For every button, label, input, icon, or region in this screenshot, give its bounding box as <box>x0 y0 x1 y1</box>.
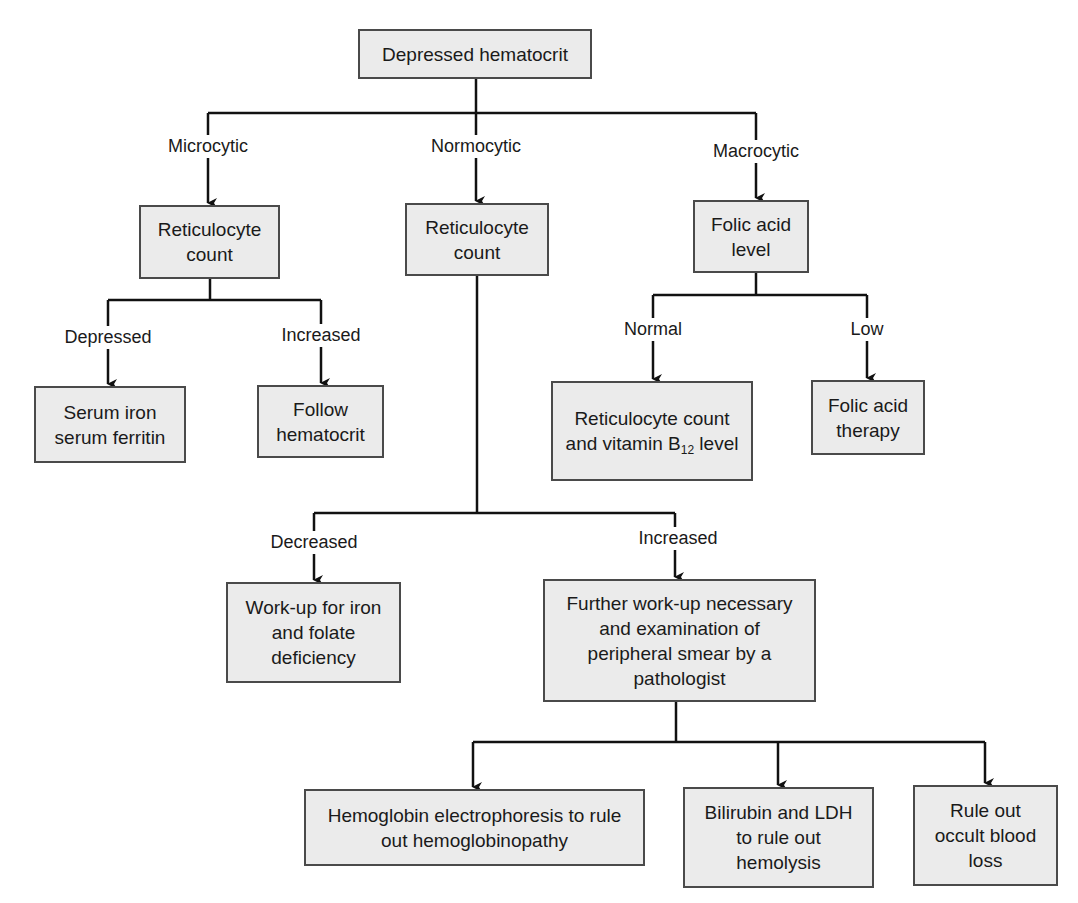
node-text: Folic acid therapy <box>821 393 916 443</box>
edge-label-microcytic: Microcytic <box>165 135 251 158</box>
node-text: Depressed hematocrit <box>382 42 568 67</box>
node-text: Hemoglobin electrophoresis to rule out h… <box>315 803 635 853</box>
node-text: Rule out occult blood loss <box>928 798 1043 873</box>
node-text-subscript: 12 <box>681 443 694 457</box>
edge-label-normal: Normal <box>621 318 685 341</box>
node-text: Folic acid level <box>706 212 796 262</box>
node-text: Further work-up necessary and examinatio… <box>555 591 805 691</box>
node-rule-out-occult-blood: Rule out occult blood loss <box>913 785 1058 886</box>
node-text: Bilirubin and LDH to rule out hemolysis <box>696 800 861 875</box>
node-text: Reticulocyte count <box>422 215 532 265</box>
node-hemoglobin-electrophoresis: Hemoglobin electrophoresis to rule out h… <box>304 789 645 866</box>
node-bilirubin-ldh: Bilirubin and LDH to rule out hemolysis <box>683 787 874 888</box>
flowchart-canvas: Depressed hematocrit Reticulocyte count … <box>0 0 1078 903</box>
node-text: Follow hematocrit <box>271 397 371 447</box>
node-folic-acid-level: Folic acid level <box>693 200 809 273</box>
edge-label-decreased: Decreased <box>267 531 360 554</box>
edge-label-low: Low <box>847 318 886 341</box>
edge-label-macrocytic: Macrocytic <box>710 140 802 163</box>
node-text: Reticulocyte count <box>155 217 265 267</box>
node-workup-iron-folate: Work-up for iron and folate deficiency <box>226 582 401 683</box>
edge-label-increased-micro: Increased <box>278 324 363 347</box>
node-reticulocyte-count-normocytic: Reticulocyte count <box>405 203 549 276</box>
node-text: Reticulocyte count and vitamin B12 level <box>565 406 740 456</box>
node-text: Serum iron serum ferritin <box>48 400 173 450</box>
node-serum-iron-ferritin: Serum iron serum ferritin <box>34 386 186 463</box>
node-text-tail: level <box>694 433 738 454</box>
node-text: Work-up for iron and folate deficiency <box>239 595 389 670</box>
node-further-workup: Further work-up necessary and examinatio… <box>543 579 816 702</box>
node-folic-acid-therapy: Folic acid therapy <box>811 380 925 455</box>
node-follow-hematocrit: Follow hematocrit <box>257 385 384 458</box>
edge-label-increased-normo: Increased <box>635 527 720 550</box>
node-reticulocyte-b12: Reticulocyte count and vitamin B12 level <box>551 381 753 481</box>
edge-label-depressed: Depressed <box>61 326 154 349</box>
node-reticulocyte-count-microcytic: Reticulocyte count <box>139 205 280 279</box>
node-depressed-hematocrit: Depressed hematocrit <box>358 29 592 79</box>
edge-label-normocytic: Normocytic <box>428 135 524 158</box>
